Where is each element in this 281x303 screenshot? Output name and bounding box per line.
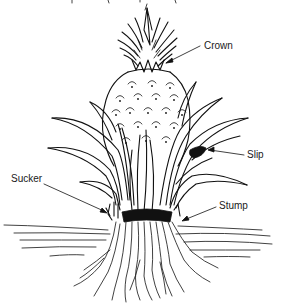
cropped-title-fragment — [72, 0, 176, 10]
stump-arrow — [184, 207, 216, 220]
slip-shape — [190, 146, 207, 158]
label-sucker: Sucker — [11, 174, 42, 184]
slip-arrow — [210, 150, 244, 155]
label-slip: Slip — [247, 150, 264, 160]
plant-leaves — [48, 82, 248, 212]
roots — [74, 222, 218, 302]
crown-arrowhead — [166, 58, 173, 63]
sucker-arrow — [44, 184, 106, 212]
fruit-eyes — [112, 81, 186, 144]
pineapple-illustration — [0, 0, 281, 303]
stump-arrowhead — [182, 216, 189, 221]
pineapple-diagram: Crown Slip Sucker Stump — [0, 0, 281, 303]
label-crown: Crown — [204, 41, 233, 51]
stump-base — [122, 204, 180, 222]
label-stump: Stump — [219, 201, 248, 211]
